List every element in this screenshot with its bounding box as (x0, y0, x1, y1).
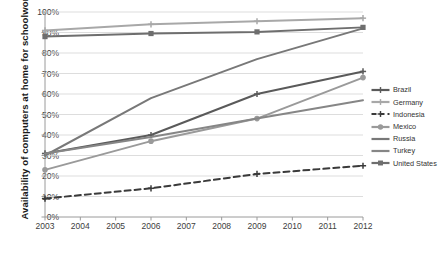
plot-area (45, 12, 363, 217)
legend-item-indonesia[interactable]: Indonesia (371, 108, 441, 120)
legend-item-brazil[interactable]: Brazil (371, 84, 441, 96)
data-point-marker (148, 138, 154, 144)
legend-label: Brazil (393, 86, 411, 93)
legend-label: Turkey (393, 147, 415, 154)
legend-label: Germany (393, 99, 423, 106)
legend-label: Indonesia (393, 111, 425, 118)
series-mexico (42, 75, 366, 173)
legend-swatch-icon (371, 97, 390, 107)
series-line (45, 78, 363, 170)
x-tick-label: 2003 (25, 222, 65, 231)
data-point-marker (42, 167, 48, 173)
data-point-marker (360, 75, 366, 81)
legend-swatch-icon (371, 158, 390, 168)
data-point-marker (378, 112, 384, 118)
data-point-marker (360, 163, 366, 169)
legend-item-mexico[interactable]: Mexico (371, 121, 441, 133)
data-point-marker (42, 34, 47, 39)
legend-item-russia[interactable]: Russia (371, 133, 441, 145)
legend-item-turkey[interactable]: Turkey (371, 145, 441, 157)
x-tick-label: 2009 (237, 222, 277, 231)
data-point-marker (378, 99, 384, 105)
legend-label: United States (393, 160, 437, 167)
x-tick-label: 2006 (131, 222, 171, 231)
x-tick-label: 2005 (96, 222, 136, 231)
x-tick-label: 2007 (166, 222, 206, 231)
legend: BrazilGermanyIndonesiaMexicoRussiaTurkey… (371, 84, 441, 169)
legend-item-united-states[interactable]: United States (371, 157, 441, 169)
series-line (45, 100, 363, 153)
data-point-marker (378, 124, 383, 129)
series-line (45, 166, 363, 199)
x-tick-label: 2012 (343, 222, 383, 231)
data-point-marker (254, 29, 259, 34)
data-point-marker (254, 18, 260, 24)
data-point-marker (360, 25, 365, 30)
series-brazil (42, 68, 366, 156)
data-point-marker (148, 21, 154, 27)
data-point-marker (148, 31, 153, 36)
legend-swatch-icon (371, 122, 390, 132)
legend-label: Russia (393, 135, 415, 142)
x-tick-label: 2004 (60, 222, 100, 231)
x-tick-label: 2011 (308, 222, 348, 231)
line-chart: Availability of computers at home for sc… (0, 0, 441, 255)
series-russia (45, 28, 363, 155)
legend-item-germany[interactable]: Germany (371, 96, 441, 108)
data-point-marker (378, 161, 383, 166)
data-point-marker (148, 185, 154, 191)
legend-swatch-icon (371, 109, 390, 119)
series-indonesia (42, 163, 366, 202)
legend-swatch-icon (371, 146, 390, 156)
series-line (45, 27, 363, 36)
series-line (45, 28, 363, 155)
x-tick-label: 2010 (272, 222, 312, 231)
legend-swatch-icon (371, 85, 390, 95)
legend-swatch-icon (371, 134, 390, 144)
x-tick-label: 2008 (202, 222, 242, 231)
plot-svg (45, 12, 363, 217)
data-point-marker (360, 15, 366, 21)
series-line (45, 71, 363, 153)
data-point-marker (378, 87, 384, 93)
data-point-marker (254, 91, 260, 97)
series-turkey (45, 100, 363, 153)
series-germany (42, 15, 366, 34)
legend-label: Mexico (393, 123, 416, 130)
